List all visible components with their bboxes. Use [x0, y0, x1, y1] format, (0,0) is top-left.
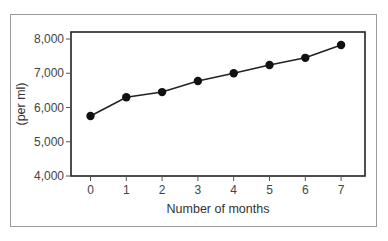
data-point: [265, 61, 273, 69]
y-axis-title: (per ml): [14, 82, 28, 125]
data-point: [194, 77, 202, 85]
data-point: [86, 112, 94, 120]
x-tick-label: 6: [302, 183, 309, 197]
y-tick-label: 7,000: [34, 66, 64, 80]
data-point: [230, 69, 238, 77]
data-point: [122, 93, 130, 101]
x-axis: 01234567: [87, 176, 345, 197]
y-tick-label: 4,000: [34, 169, 64, 183]
x-tick-label: 1: [123, 183, 130, 197]
data-series: [86, 41, 345, 120]
data-point: [158, 88, 166, 96]
x-tick-label: 0: [87, 183, 94, 197]
x-tick-label: 2: [159, 183, 166, 197]
x-tick-label: 3: [195, 183, 202, 197]
x-tick-label: 5: [266, 183, 273, 197]
x-tick-label: 7: [338, 183, 345, 197]
data-point: [337, 41, 345, 49]
y-axis: 4,0005,0006,0007,0008,000: [34, 32, 71, 183]
x-tick-label: 4: [230, 183, 237, 197]
y-tick-label: 5,000: [34, 135, 64, 149]
y-tick-label: 8,000: [34, 32, 64, 46]
data-point: [301, 54, 309, 62]
x-axis-title: Number of months: [167, 202, 270, 216]
y-tick-label: 6,000: [34, 101, 64, 115]
line-chart: 4,0005,0006,0007,0008,000 01234567 Numbe…: [0, 0, 388, 241]
